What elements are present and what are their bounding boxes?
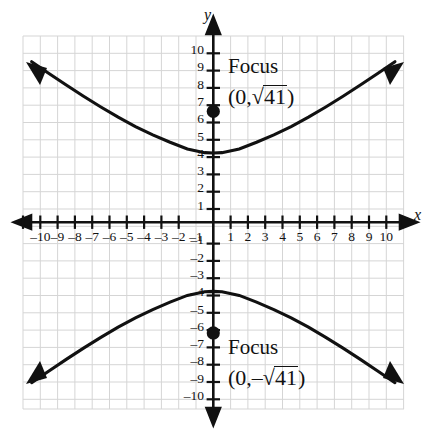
graph-canvas: –10–9–8–7–6–5–4–3–2–112345678910 1098765… — [0, 0, 431, 429]
focus-label-upper: Focus — [228, 56, 278, 77]
x-tick-label: –3 — [154, 229, 169, 244]
y-tick-label: 5 — [197, 129, 204, 144]
x-tick-label: –4 — [136, 229, 151, 244]
y-tick-label: 7 — [197, 94, 204, 109]
x-tick-label: –6 — [102, 229, 117, 244]
y-tick-label: 6 — [197, 111, 204, 126]
focus-coord-upper-open: (0, — [228, 84, 252, 109]
focus-coordinate-upper: (0,√41) — [228, 85, 294, 108]
focus-coord-upper-close: ) — [287, 84, 294, 109]
x-tick-label: –7 — [84, 229, 99, 244]
x-tick-label: 8 — [348, 229, 355, 244]
y-tick-label: 8 — [197, 77, 204, 92]
x-tick-label: 2 — [245, 229, 252, 244]
radicand-lower: 41 — [274, 366, 298, 389]
y-tick-label: –2 — [190, 250, 205, 265]
sqrt-group-upper: √41 — [252, 85, 287, 108]
x-tick-label: 1 — [227, 229, 234, 244]
y-tick-label: –7 — [190, 336, 205, 351]
y-tick-label: 3 — [197, 163, 204, 178]
focus-coord-lower-close: ) — [298, 365, 305, 390]
x-tick-label: –10 — [29, 229, 51, 244]
focus-coord-lower-open: (0, — [228, 365, 252, 390]
x-tick-label: 7 — [331, 229, 338, 244]
y-tick-label: –10 — [183, 388, 205, 403]
arrowhead-upper-left — [26, 62, 47, 85]
hyperbola-figure: –10–9–8–7–6–5–4–3–2–112345678910 1098765… — [0, 0, 431, 429]
sqrt-group-lower: √41 — [263, 366, 298, 389]
y-tick-label: –6 — [190, 319, 205, 334]
x-tick-label: –5 — [119, 229, 134, 244]
x-tick-label: 9 — [366, 229, 373, 244]
x-tick-label: –8 — [67, 229, 82, 244]
y-tick-label: 1 — [197, 198, 204, 213]
y-tick-label: –5 — [190, 302, 205, 317]
focus-point-upper — [207, 105, 220, 118]
y-axis-arrow-down — [207, 408, 220, 425]
y-tick-label: 10 — [191, 42, 205, 57]
y-tick-label: –3 — [190, 267, 205, 282]
focus-coord-lower-sign: – — [252, 365, 263, 390]
focus-label-lower: Focus — [228, 337, 278, 358]
focus-point-lower — [207, 326, 220, 339]
x-tick-label: –2 — [171, 229, 186, 244]
focus-coordinate-lower: (0,–√41) — [228, 366, 305, 389]
x-tick-label: 4 — [279, 229, 286, 244]
y-axis-label: y — [204, 6, 211, 24]
x-tick-label: 3 — [262, 229, 269, 244]
y-tick-label: 9 — [197, 59, 204, 74]
y-tick-label: –1 — [190, 232, 205, 247]
x-tick-label: –9 — [50, 229, 65, 244]
x-tick-label: 10 — [380, 229, 394, 244]
x-axis-label: x — [414, 206, 421, 224]
x-tick-label: 6 — [314, 229, 321, 244]
radicand-upper: 41 — [263, 85, 287, 108]
x-axis-tick-labels: –10–9–8–7–6–5–4–3–2–112345678910 — [29, 229, 393, 244]
y-tick-label: 2 — [197, 180, 204, 195]
x-tick-label: 5 — [296, 229, 303, 244]
y-tick-label: –9 — [190, 371, 205, 386]
y-tick-label: –8 — [190, 353, 205, 368]
